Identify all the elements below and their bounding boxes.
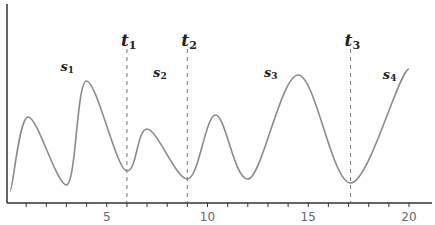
segment-label-s3: s3 xyxy=(264,65,278,81)
segment-label-s4: s4 xyxy=(383,67,397,83)
vertical-markers: t1t2t3 xyxy=(121,30,360,202)
x-tick-label: 10 xyxy=(200,210,215,224)
marker-label-t2: t2 xyxy=(181,30,197,52)
segment-labels: s1s2s3s4 xyxy=(60,59,396,83)
marker-label-t1: t1 xyxy=(121,30,137,52)
x-tick-label: 15 xyxy=(301,210,316,224)
signal-curve xyxy=(10,69,409,191)
marker-label-t3: t3 xyxy=(345,30,361,52)
segment-label-s1: s1 xyxy=(60,59,74,75)
segment-label-s2: s2 xyxy=(153,65,167,81)
x-tick-label: 20 xyxy=(401,210,416,224)
axes: 5101520 xyxy=(7,4,432,224)
line-chart: 5101520 t1t2t3 s1s2s3s4 xyxy=(0,0,435,225)
x-axis-ticks: 5101520 xyxy=(26,203,416,224)
x-tick-label: 5 xyxy=(103,210,111,224)
